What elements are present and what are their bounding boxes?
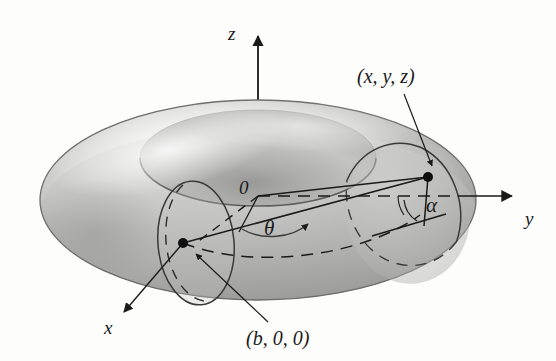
torus-solid bbox=[26, 84, 479, 308]
x-axis-label: x bbox=[104, 318, 112, 337]
alpha-angle-label: α bbox=[426, 195, 437, 216]
surface-point-marker bbox=[423, 172, 433, 182]
tube-center-point-marker bbox=[178, 238, 188, 248]
y-axis-label: y bbox=[525, 209, 533, 228]
torus-diagram-svg bbox=[0, 0, 556, 361]
tube-center-point-label: (b, 0, 0) bbox=[246, 328, 309, 348]
z-axis-label: z bbox=[228, 24, 235, 43]
origin-label: 0 bbox=[239, 178, 249, 197]
theta-angle-label: θ bbox=[264, 218, 274, 239]
surface-point-label: (x, y, z) bbox=[357, 66, 415, 86]
figure-canvas: z y x 0 (x, y, z) (b, 0, 0) θ α bbox=[0, 0, 556, 361]
